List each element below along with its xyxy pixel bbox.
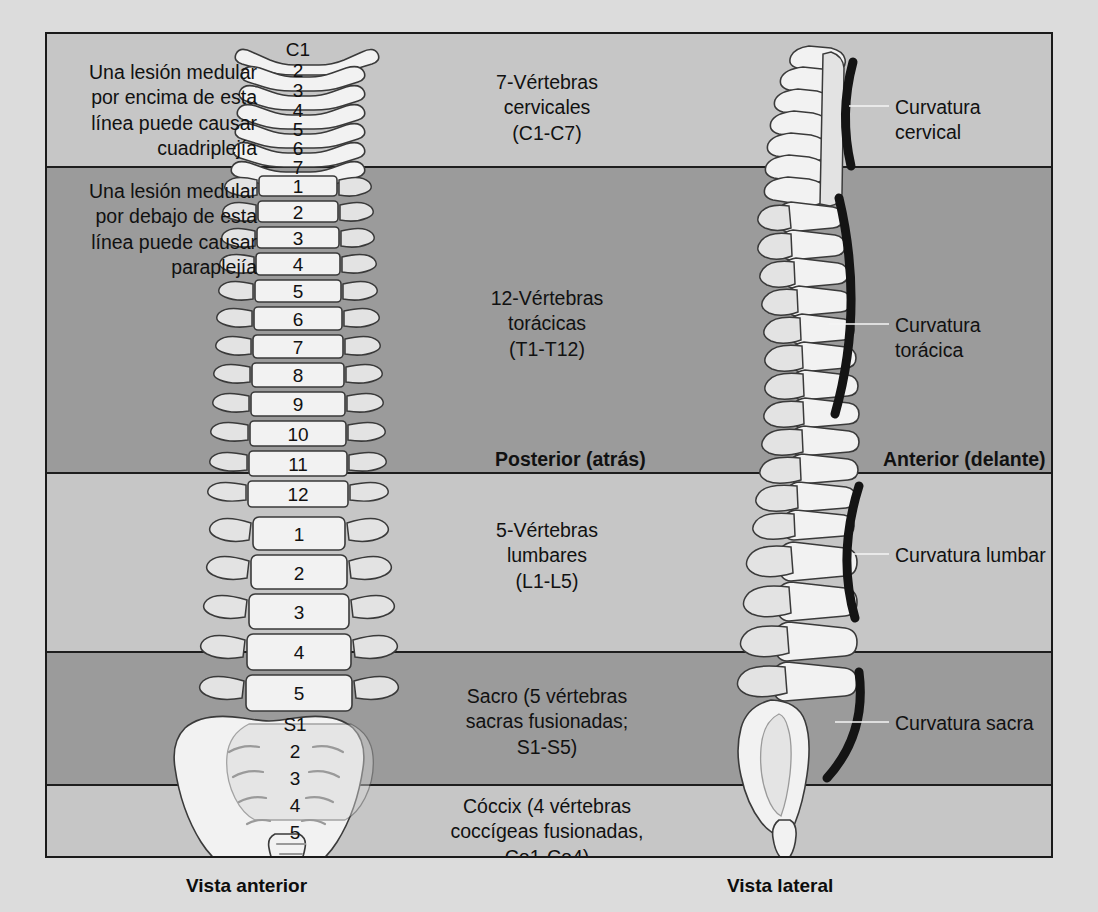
orientation-anterior: Anterior (delante) [883, 447, 1046, 472]
section-label-thoracic-line3: (T1-T12) [447, 337, 647, 362]
vnum-l2: 2 [294, 564, 305, 583]
curvature-label-cervical: Curvatura cervical [895, 95, 1051, 146]
orientation-posterior: Posterior (atrás) [495, 447, 646, 472]
section-label-lumbar-line1: 5-Vértebras [447, 518, 647, 543]
vnum-l5: 5 [294, 684, 305, 703]
caption-vista-lateral: Vista lateral [727, 874, 833, 899]
vnum-t11: 11 [288, 455, 308, 474]
vnum-t1: 1 [293, 177, 304, 196]
section-label-coccyx-line1: Cóccix (4 vértebras [419, 794, 675, 819]
section-label-sacral-line1: Sacro (5 vértebras [427, 684, 667, 709]
section-label-cervical-line1: 7-Vértebras [447, 70, 647, 95]
section-label-coccyx: Cóccix (4 vértebras coccígeas fusionadas… [419, 794, 675, 858]
section-label-lumbar: 5-Vértebras lumbares (L1-L5) [447, 518, 647, 594]
vnum-s1: S1 [283, 715, 306, 734]
vnum-l3: 3 [294, 603, 305, 622]
vnum-t2: 2 [293, 203, 304, 222]
section-label-lumbar-line2: lumbares [447, 543, 647, 568]
caption-vista-anterior: Vista anterior [186, 874, 307, 899]
section-label-cervical: 7-Vértebras cervicales (C1-C7) [447, 70, 647, 146]
section-label-lumbar-line3: (L1-L5) [447, 569, 647, 594]
vnum-s5: 5 [290, 823, 301, 842]
vnum-c4: 4 [293, 101, 304, 120]
vnum-c1: C1 [286, 40, 310, 59]
vnum-t7: 7 [293, 338, 304, 357]
section-label-sacral: Sacro (5 vértebras sacras fusionadas; S1… [427, 684, 667, 760]
section-label-thoracic: 12-Vértebras torácicas (T1-T12) [447, 286, 647, 362]
diagram-frame: C1 2 3 4 5 6 7 1 2 3 4 5 6 7 8 9 10 11 1… [45, 32, 1053, 858]
vnum-c6: 6 [293, 139, 304, 158]
vnum-t6: 6 [293, 310, 304, 329]
section-label-sacral-line3: S1-S5) [427, 735, 667, 760]
note-below-line-text: Una lesión medular por debajo de esta lí… [89, 180, 257, 278]
vnum-s4: 4 [290, 796, 301, 815]
vnum-c5: 5 [293, 120, 304, 139]
note-above-line-text: Una lesión medular por encima de esta lí… [89, 61, 257, 159]
section-label-coccyx-line3: Co1-Co4) [419, 845, 675, 858]
vnum-c2: 2 [293, 61, 304, 80]
separator-sacral-coccyx [47, 784, 1051, 786]
vnum-l1: 1 [294, 525, 305, 544]
vnum-t10: 10 [287, 425, 308, 444]
vnum-t5: 5 [293, 282, 304, 301]
section-label-thoracic-line1: 12-Vértebras [447, 286, 647, 311]
separator-lumbar-sacral [47, 651, 1051, 653]
curvature-label-lumbar: Curvatura lumbar [895, 543, 1046, 568]
section-label-cervical-line3: (C1-C7) [447, 121, 647, 146]
vnum-t12: 12 [287, 485, 308, 504]
vnum-t9: 9 [293, 395, 304, 414]
vnum-t4: 4 [293, 255, 304, 274]
vnum-s2: 2 [290, 742, 301, 761]
separator-cervical-thoracic [47, 166, 1051, 168]
vnum-c3: 3 [293, 81, 304, 100]
note-above-line: Una lesión medular por encima de esta lí… [61, 60, 257, 161]
note-below-line: Una lesión medular por debajo de esta lí… [61, 179, 257, 280]
section-label-thoracic-line2: torácicas [447, 311, 647, 336]
vnum-c7: 7 [293, 158, 304, 177]
curvature-label-thoracic: Curvatura torácica [895, 313, 1051, 364]
curvature-label-sacral: Curvatura sacra [895, 711, 1034, 736]
section-label-cervical-line2: cervicales [447, 95, 647, 120]
section-label-sacral-line2: sacras fusionadas; [427, 709, 667, 734]
vnum-s3: 3 [290, 769, 301, 788]
vnum-t3: 3 [293, 229, 304, 248]
vnum-l4: 4 [294, 643, 305, 662]
section-label-coccyx-line2: coccígeas fusionadas, [419, 819, 675, 844]
diagram-page: C1 2 3 4 5 6 7 1 2 3 4 5 6 7 8 9 10 11 1… [0, 0, 1098, 912]
vnum-t8: 8 [293, 366, 304, 385]
